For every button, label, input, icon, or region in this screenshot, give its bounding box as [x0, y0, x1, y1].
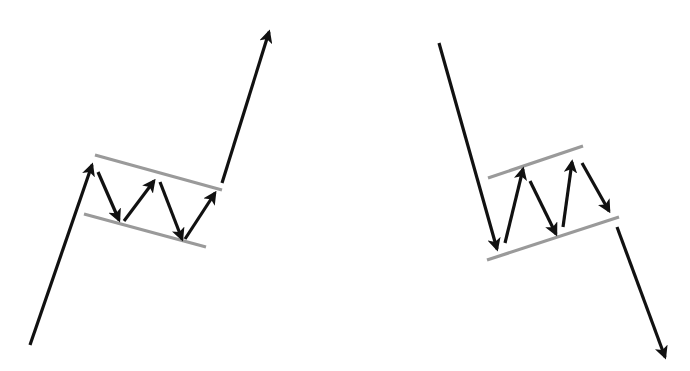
- flagpole-arrow-icon: [439, 43, 497, 249]
- zigzag-up-arrow-icon: [563, 162, 572, 227]
- zigzag-up-arrow-icon: [185, 193, 215, 239]
- zigzag-down-arrow-icon: [160, 182, 182, 239]
- channel-upper-line: [95, 155, 222, 190]
- zigzag-up-arrow-icon: [505, 169, 523, 243]
- zigzag-down-arrow-icon: [582, 163, 609, 211]
- flagpole-arrow-icon: [30, 165, 92, 345]
- channel-lower-line: [84, 214, 206, 247]
- zigzag-down-arrow-icon: [98, 172, 119, 220]
- zigzag-down-arrow-icon: [530, 181, 556, 234]
- channel-upper-line: [488, 146, 583, 178]
- breakout-up-arrow-icon: [222, 32, 269, 183]
- breakout-down-arrow-icon: [617, 227, 665, 357]
- flag-patterns-diagram: [0, 0, 690, 371]
- bear-flag-pattern: [439, 43, 665, 357]
- bull-flag-pattern: [30, 32, 269, 345]
- zigzag-up-arrow-icon: [124, 181, 154, 221]
